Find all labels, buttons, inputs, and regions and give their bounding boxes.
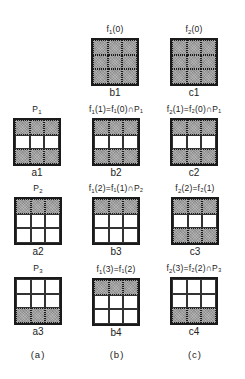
empty-cell — [109, 228, 124, 243]
empty-cell — [202, 214, 217, 229]
grid-a2 — [14, 197, 62, 245]
empty-cell — [45, 294, 60, 309]
shaded-cell — [122, 69, 137, 84]
shaded-cell — [201, 40, 216, 55]
shaded-cell — [187, 55, 202, 70]
shaded-cell — [123, 120, 138, 135]
empty-cell — [31, 279, 46, 294]
shaded-cell — [122, 55, 137, 70]
shaded-cell — [202, 228, 217, 243]
grid-label-a1: a1 — [31, 168, 42, 178]
empty-cell — [109, 214, 124, 229]
shaded-cell — [201, 69, 216, 84]
empty-cell — [109, 309, 124, 324]
empty-cell — [94, 295, 109, 310]
grid-c3 — [171, 197, 219, 245]
shaded-cell — [172, 69, 187, 84]
empty-cell — [31, 228, 46, 243]
empty-cell — [188, 214, 203, 229]
grid-caption-b3: f1(2)=f₁(1)∩P₂ — [89, 184, 144, 194]
grid-caption-b1: f1(0) — [106, 25, 123, 35]
shaded-cell — [94, 280, 109, 295]
empty-cell — [123, 228, 138, 243]
shaded-cell — [45, 308, 60, 323]
empty-cell — [45, 214, 60, 229]
empty-cell — [187, 294, 202, 309]
shaded-cell — [109, 280, 124, 295]
grid-caption-b4: f1(3)=f₁(2) — [97, 265, 136, 275]
grid-b4 — [92, 278, 140, 326]
grid-a3 — [14, 277, 62, 325]
empty-cell — [45, 228, 60, 243]
shaded-cell — [187, 149, 202, 164]
empty-cell — [109, 295, 124, 310]
empty-cell — [187, 135, 202, 150]
empty-cell — [201, 294, 216, 309]
shaded-cell — [15, 149, 30, 164]
shaded-cell — [108, 55, 123, 70]
empty-cell — [94, 214, 109, 229]
empty-cell — [44, 135, 59, 150]
grid-label-b1: b1 — [109, 88, 120, 98]
shaded-cell — [123, 280, 138, 295]
shaded-cell — [16, 308, 31, 323]
grid-label-b4: b4 — [110, 328, 121, 338]
grid-label-c2: c2 — [189, 168, 200, 178]
empty-cell — [123, 295, 138, 310]
grid-caption-a1: P1 — [32, 105, 41, 115]
empty-cell — [123, 214, 138, 229]
shaded-cell — [172, 55, 187, 70]
shaded-cell — [94, 120, 109, 135]
empty-cell — [172, 279, 187, 294]
column-label-c: (c) — [188, 350, 202, 360]
grid-label-a3: a3 — [32, 327, 43, 337]
shaded-cell — [201, 55, 216, 70]
shaded-cell — [202, 199, 217, 214]
shaded-cell — [172, 40, 187, 55]
shaded-cell — [31, 199, 46, 214]
grid-label-c4: c4 — [189, 327, 200, 337]
shaded-cell — [172, 308, 187, 323]
grid-caption-c1: f2(0) — [185, 25, 202, 35]
empty-cell — [31, 294, 46, 309]
shaded-cell — [187, 40, 202, 55]
empty-cell — [15, 135, 30, 150]
empty-cell — [16, 214, 31, 229]
empty-cell — [30, 135, 45, 150]
column-label-b: (b) — [110, 350, 125, 360]
shaded-cell — [109, 199, 124, 214]
empty-cell — [123, 309, 138, 324]
empty-cell — [173, 214, 188, 229]
shaded-cell — [93, 55, 108, 70]
empty-cell — [172, 135, 187, 150]
shaded-cell — [187, 120, 202, 135]
shaded-cell — [187, 69, 202, 84]
shaded-cell — [188, 199, 203, 214]
empty-cell — [201, 279, 216, 294]
empty-cell — [94, 309, 109, 324]
empty-cell — [31, 214, 46, 229]
shaded-cell — [201, 308, 216, 323]
shaded-cell — [44, 149, 59, 164]
empty-cell — [187, 279, 202, 294]
grid-caption-c3: f2(2)=f₂(1) — [175, 184, 214, 194]
shaded-cell — [172, 120, 187, 135]
shaded-cell — [30, 120, 45, 135]
shaded-cell — [173, 199, 188, 214]
empty-cell — [94, 135, 109, 150]
grid-c2 — [170, 118, 218, 166]
empty-cell — [172, 294, 187, 309]
shaded-cell — [188, 228, 203, 243]
shaded-cell — [31, 308, 46, 323]
grid-c1 — [170, 38, 218, 86]
shaded-cell — [16, 199, 31, 214]
empty-cell — [201, 135, 216, 150]
empty-cell — [16, 294, 31, 309]
grid-label-b3: b3 — [110, 247, 121, 257]
shaded-cell — [94, 149, 109, 164]
shaded-cell — [15, 120, 30, 135]
shaded-cell — [93, 40, 108, 55]
shaded-cell — [109, 120, 124, 135]
shaded-cell — [30, 149, 45, 164]
empty-cell — [16, 279, 31, 294]
